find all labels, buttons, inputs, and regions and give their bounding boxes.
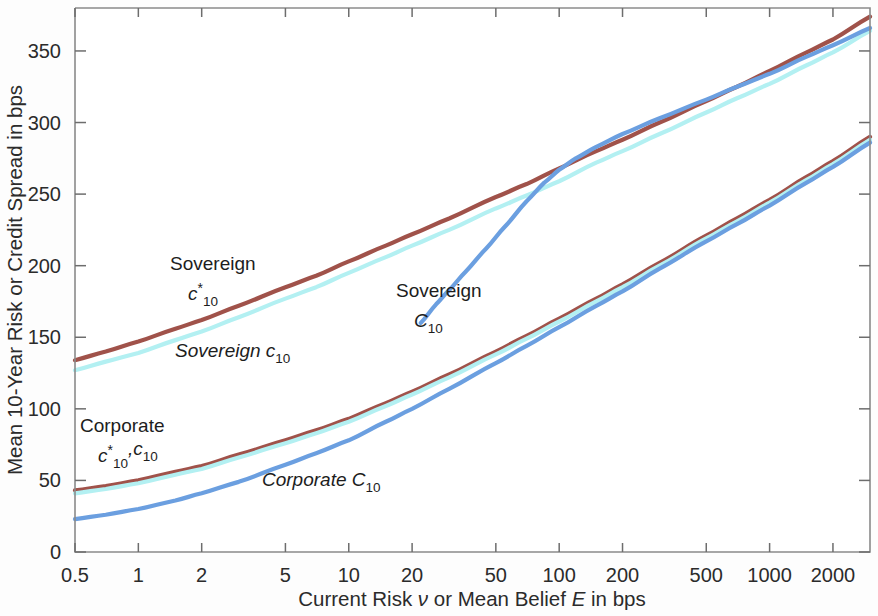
y-tick-label: 50 [39, 469, 61, 491]
x-tick-label: 200 [606, 564, 639, 586]
x-tick-label: 0.5 [61, 564, 89, 586]
x-axis-title: Current Risk ν or Mean Belief E in bps [298, 587, 646, 610]
annotation-base-symbol: Corporate C [262, 469, 366, 490]
x-tick-label: 500 [690, 564, 723, 586]
annotation-base-symbol: Sovereign c [175, 340, 276, 361]
y-tick-label: 0 [50, 541, 61, 563]
annotation-line-1: Corporate [80, 415, 165, 436]
x-tick-label: 20 [401, 564, 423, 586]
annotation-subscript: 10 [203, 294, 218, 309]
y-tick-label: 150 [28, 326, 61, 348]
y-tick-label: 200 [28, 255, 61, 277]
y-tick-label: 100 [28, 398, 61, 420]
x-tick-label: 1 [133, 564, 144, 586]
annotation-line-1: Sovereign [170, 253, 256, 274]
annotation-suffix-subscript: 10 [143, 449, 158, 464]
annotation-subscript: 10 [275, 351, 290, 366]
annotation-subscript: 10 [113, 456, 128, 471]
y-tick-label: 250 [28, 183, 61, 205]
x-tick-label: 5 [280, 564, 291, 586]
annotation-base-symbol: c [188, 283, 198, 304]
chart-svg: 0.51251020501002005001000200005010015020… [0, 0, 878, 616]
y-tick-label: 350 [28, 40, 61, 62]
x-tick-label: 2 [196, 564, 207, 586]
annotation-line-1: Sovereign [396, 280, 482, 301]
x-tick-label: 50 [485, 564, 507, 586]
annotation-subscript: 10 [428, 321, 443, 336]
annotation-base-symbol: c [98, 445, 108, 466]
x-tick-label: 10 [338, 564, 360, 586]
annotation-base-symbol: C [414, 310, 428, 331]
y-tick-label: 300 [28, 112, 61, 134]
x-tick-label: 1000 [747, 564, 792, 586]
chart-figure: 0.51251020501002005001000200005010015020… [0, 0, 878, 616]
annotation-subscript: 10 [366, 480, 381, 495]
x-tick-label: 2000 [811, 564, 856, 586]
x-tick-label: 100 [542, 564, 575, 586]
y-axis-title: Mean 10-Year Risk or Credit Spread in bp… [3, 85, 26, 475]
annotation-suffix: ,c [128, 438, 143, 459]
